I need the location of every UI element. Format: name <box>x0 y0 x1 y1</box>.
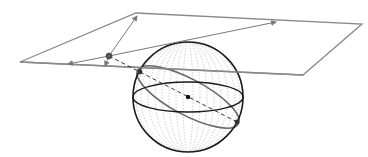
sphere-center-point <box>186 95 190 99</box>
vector-arrow-right <box>109 22 276 56</box>
plane-point <box>106 53 112 59</box>
plane-vectors <box>68 16 276 66</box>
sphere-point-upper <box>138 70 143 75</box>
vector-arrow-left <box>68 56 109 64</box>
sphere-projection-diagram <box>0 0 368 157</box>
sphere-point-lower <box>235 120 240 125</box>
